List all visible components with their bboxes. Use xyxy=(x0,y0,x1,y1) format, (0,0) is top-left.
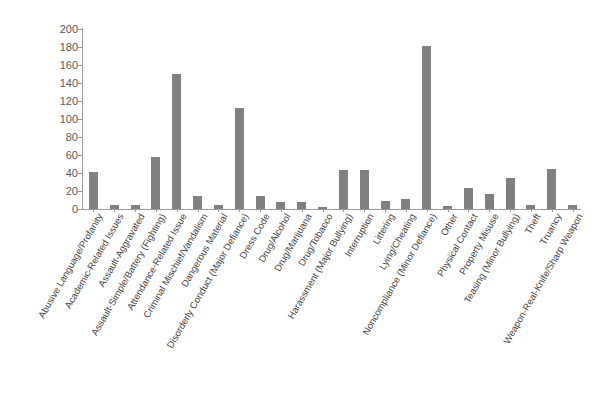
bar-slot xyxy=(479,29,500,209)
y-axis-tick-mark xyxy=(78,137,82,138)
bar-slot xyxy=(416,29,437,209)
y-axis-tick-label: 180 xyxy=(60,42,78,53)
y-axis-tick-mark xyxy=(78,101,82,102)
y-axis-tick-mark xyxy=(78,191,82,192)
bar-chart: 200180160140120100806040200 Abusive Lang… xyxy=(0,0,600,398)
bar[interactable] xyxy=(506,178,515,209)
bar-slot xyxy=(562,29,583,209)
x-axis-tick-mark xyxy=(156,209,157,212)
bar-slot xyxy=(437,29,458,209)
bar[interactable] xyxy=(360,170,369,209)
y-axis-tick-label: 200 xyxy=(60,24,78,35)
bar[interactable] xyxy=(256,196,265,209)
y-axis-tick-label: 60 xyxy=(66,150,78,161)
y-axis-tick-mark xyxy=(78,47,82,48)
y-axis-tick-label: 20 xyxy=(66,186,78,197)
bar[interactable] xyxy=(151,157,160,209)
bar-slot xyxy=(291,29,312,209)
bar[interactable] xyxy=(235,108,244,209)
bar-slot xyxy=(333,29,354,209)
bar-slot xyxy=(521,29,542,209)
x-axis-tick-mark xyxy=(427,209,428,212)
x-axis-tick-mark xyxy=(302,209,303,212)
bar-slot xyxy=(229,29,250,209)
y-axis-tick-mark xyxy=(78,155,82,156)
x-axis-tick-mark xyxy=(448,209,449,212)
bar[interactable] xyxy=(381,201,390,209)
y-axis-tick-mark xyxy=(78,65,82,66)
x-axis-tick-label: Theft xyxy=(523,212,542,236)
x-axis-tick-mark xyxy=(510,209,511,212)
x-axis-tick-mark xyxy=(239,209,240,212)
bar[interactable] xyxy=(485,194,494,209)
bar[interactable] xyxy=(172,74,181,209)
x-axis-category-labels: Abusive Language/ProfanityAcademic-Relat… xyxy=(83,212,583,392)
bar-slot xyxy=(312,29,333,209)
x-axis-tick-mark xyxy=(260,209,261,212)
bar-slot xyxy=(250,29,271,209)
bar-slot xyxy=(354,29,375,209)
y-axis-tick-mark xyxy=(78,29,82,30)
x-axis-tick-mark xyxy=(114,209,115,212)
bar[interactable] xyxy=(89,172,98,209)
bar[interactable] xyxy=(401,199,410,209)
x-axis-tick-mark xyxy=(177,209,178,212)
bar-slot xyxy=(375,29,396,209)
bar-slot xyxy=(208,29,229,209)
x-axis-tick-mark xyxy=(323,209,324,212)
y-axis-tick-label: 120 xyxy=(60,96,78,107)
bar-slot xyxy=(187,29,208,209)
y-axis-tick-mark xyxy=(78,173,82,174)
bar-slot xyxy=(166,29,187,209)
x-axis-tick-mark xyxy=(343,209,344,212)
bar[interactable] xyxy=(464,188,473,209)
x-axis-tick-mark xyxy=(489,209,490,212)
plot-area xyxy=(83,29,583,209)
y-axis-tick-label: 100 xyxy=(60,114,78,125)
bar-slot xyxy=(458,29,479,209)
x-axis-tick-mark xyxy=(406,209,407,212)
bar[interactable] xyxy=(422,46,431,209)
x-axis-tick-mark xyxy=(281,209,282,212)
bar-slot xyxy=(541,29,562,209)
bar[interactable] xyxy=(193,196,202,209)
bar-slot xyxy=(83,29,104,209)
y-axis-tick-label: 160 xyxy=(60,60,78,71)
x-axis-tick-mark xyxy=(135,209,136,212)
bar[interactable] xyxy=(339,170,348,209)
y-axis-tick-mark xyxy=(78,83,82,84)
x-axis-tick-mark xyxy=(468,209,469,212)
bar[interactable] xyxy=(297,202,306,209)
bar-slot xyxy=(396,29,417,209)
x-axis-tick-mark xyxy=(364,209,365,212)
bar-slot xyxy=(125,29,146,209)
x-axis-tick-mark xyxy=(198,209,199,212)
y-axis-tick-mark xyxy=(78,119,82,120)
bar-slot xyxy=(104,29,125,209)
x-axis-tick-mark xyxy=(93,209,94,212)
y-axis-tick-mark xyxy=(78,209,82,210)
y-axis-tick-label: 140 xyxy=(60,78,78,89)
bar-slot xyxy=(500,29,521,209)
x-axis-tick-mark xyxy=(573,209,574,212)
y-axis-tick-label: 80 xyxy=(66,132,78,143)
x-axis-tick-mark xyxy=(218,209,219,212)
y-axis-tick-label: 40 xyxy=(66,168,78,179)
bar[interactable] xyxy=(547,169,556,209)
x-axis-tick-mark xyxy=(385,209,386,212)
bar-slot xyxy=(271,29,292,209)
bar[interactable] xyxy=(276,202,285,209)
x-axis-tick-mark xyxy=(531,209,532,212)
y-axis-tick-labels: 200180160140120100806040200 xyxy=(0,0,78,398)
x-axis-tick-mark xyxy=(552,209,553,212)
bar-slot xyxy=(146,29,167,209)
